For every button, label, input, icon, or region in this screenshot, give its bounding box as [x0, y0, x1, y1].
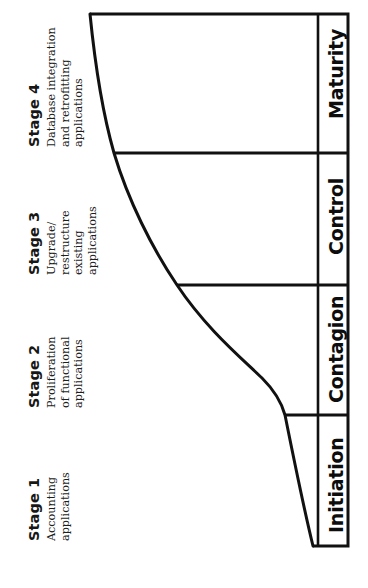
stage-2-description: Proliferation of functional applications — [45, 336, 86, 408]
stage-4-description-line-2: and retrofitting — [59, 27, 73, 147]
phase-label-maturity: Maturity — [325, 29, 347, 119]
stage-4-description: Database integration and retrofitting ap… — [45, 27, 86, 147]
phase-label-contagion: Contagion — [325, 296, 347, 403]
stage-2-description-line-1: Proliferation — [45, 336, 59, 408]
stage-1-heading: Stage 1 — [26, 478, 42, 541]
stage-3-description-line-2: restructure — [59, 206, 73, 275]
stage-growth-figure: Stage 4 Database integration and retrofi… — [0, 0, 368, 588]
stage-4-heading: Stage 4 — [26, 84, 42, 147]
growth-s-curve — [90, 14, 313, 546]
stage-2-heading: Stage 2 — [26, 345, 42, 408]
stage-1-description: Accounting applications — [45, 472, 72, 541]
phase-label-control: Control — [325, 178, 347, 255]
stage-4-description-line-3: applications — [72, 27, 86, 147]
phase-label-initiation: Initiation — [325, 437, 347, 533]
stage-3-description-line-3: existing — [72, 206, 86, 275]
stage-3-description-line-4: applications — [86, 206, 100, 275]
stage-2-description-line-3: applications — [72, 336, 86, 408]
stage-4-description-line-1: Database integration — [45, 27, 59, 147]
stage-3-description-line-1: Upgrade/ — [45, 206, 59, 275]
stage-2-description-line-2: of functional — [59, 336, 73, 408]
stage-3-heading: Stage 3 — [26, 212, 42, 275]
stage-1-description-line-2: applications — [59, 472, 73, 541]
stage-1-description-line-1: Accounting — [45, 472, 59, 541]
outer-frame — [90, 14, 348, 546]
stage-3-description: Upgrade/ restructure existing applicatio… — [45, 206, 99, 275]
